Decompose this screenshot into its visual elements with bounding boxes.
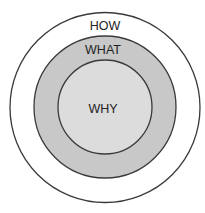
label-why: WHY xyxy=(88,102,118,116)
label-how: HOW xyxy=(90,19,121,33)
label-what: WHAT xyxy=(85,43,121,57)
golden-circle-diagram: HOW WHAT WHY xyxy=(0,0,205,213)
